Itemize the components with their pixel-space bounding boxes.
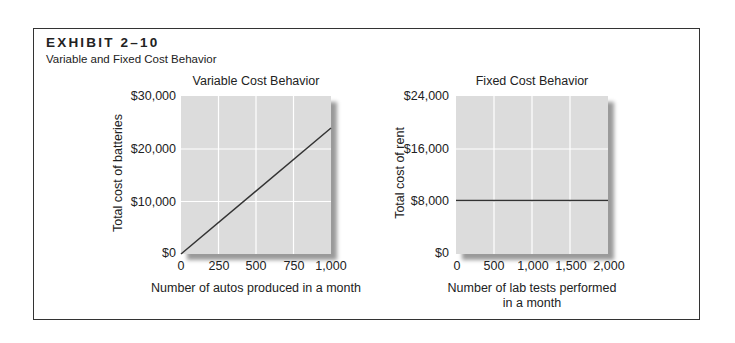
fixed-gridlines xyxy=(456,96,608,254)
variable-gridlines xyxy=(181,96,331,254)
chart-lines-overlay xyxy=(0,0,735,343)
